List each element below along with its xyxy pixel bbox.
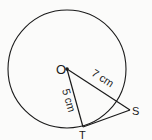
- label-t: T: [79, 129, 86, 140]
- label-ot-length: 5 cm: [60, 87, 78, 113]
- geometry-diagram: O T S 7 cm 5 cm: [0, 0, 152, 140]
- label-o: O: [56, 62, 66, 77]
- label-s: S: [132, 105, 139, 117]
